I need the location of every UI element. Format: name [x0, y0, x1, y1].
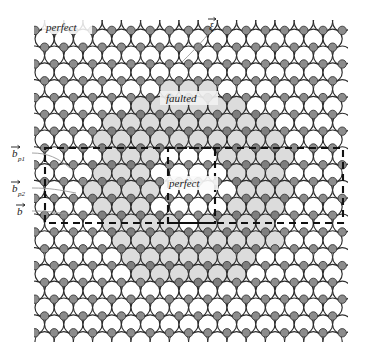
interstitial-atom [40, 110, 48, 118]
interstitial-atom [156, 110, 164, 118]
interstitial-atom [242, 295, 250, 303]
interstitial-atom [136, 278, 144, 286]
interstitial-atom [117, 110, 125, 118]
interstitial-atom [204, 329, 212, 337]
interstitial-atom [40, 77, 48, 85]
interstitial-atom [300, 261, 308, 269]
interstitial-atom [252, 312, 260, 320]
interstitial-atom [184, 26, 192, 34]
interstitial-atom [290, 211, 298, 219]
interstitial-atom [69, 295, 77, 303]
interstitial-atom [69, 161, 77, 169]
interstitial-atom [117, 177, 125, 185]
interstitial-atom [223, 295, 231, 303]
interstitial-atom [50, 60, 58, 68]
interstitial-atom [146, 228, 154, 236]
interstitial-atom [184, 60, 192, 68]
interstitial-atom [108, 228, 116, 236]
interstitial-atom [69, 329, 77, 337]
interstitial-atom [50, 228, 58, 236]
interstitial-atom [146, 127, 154, 135]
interstitial-atom [156, 312, 164, 320]
interstitial-atom [165, 295, 173, 303]
interstitial-atom [69, 194, 77, 202]
interstitial-atom [242, 329, 250, 337]
interstitial-atom [79, 77, 87, 85]
interstitial-atom [242, 26, 250, 34]
interstitial-atom [261, 26, 269, 34]
interstitial-atom [309, 245, 317, 253]
interstitial-atom [328, 278, 336, 286]
interstitial-atom [117, 245, 125, 253]
interstitial-atom [127, 26, 135, 34]
interstitial-atom [88, 329, 96, 337]
interstitial-atom [194, 211, 202, 219]
interstitial-atom [271, 43, 279, 51]
interstitial-atom [319, 329, 327, 337]
interstitial-atom [252, 278, 260, 286]
interstitial-atom [98, 177, 106, 185]
interstitial-atom [175, 211, 183, 219]
interstitial-atom [165, 261, 173, 269]
interstitial-atom [328, 77, 336, 85]
interstitial-atom [338, 261, 346, 269]
label-perfect-inner: perfect [168, 177, 200, 189]
interstitial-atom [319, 60, 327, 68]
interstitial-atom [98, 312, 106, 320]
interstitial-atom [300, 295, 308, 303]
interstitial-atom [40, 245, 48, 253]
interstitial-atom [184, 228, 192, 236]
interstitial-atom [146, 60, 154, 68]
interstitial-atom [319, 194, 327, 202]
interstitial-atom [127, 261, 135, 269]
interstitial-atom [40, 312, 48, 320]
interstitial-atom [98, 110, 106, 118]
interstitial-atom [79, 110, 87, 118]
interstitial-atom [117, 312, 125, 320]
interstitial-atom [165, 329, 173, 337]
interstitial-atom [309, 278, 317, 286]
interstitial-atom [290, 43, 298, 51]
interstitial-atom [232, 43, 240, 51]
interstitial-atom [60, 110, 68, 118]
interstitial-atom [223, 329, 231, 337]
interstitial-atom [88, 60, 96, 68]
interstitial-atom [146, 93, 154, 101]
interstitial-atom [213, 278, 221, 286]
interstitial-atom [79, 211, 87, 219]
interstitial-atom [290, 312, 298, 320]
interstitial-atom [69, 93, 77, 101]
interstitial-atom [108, 161, 116, 169]
interstitial-atom [136, 245, 144, 253]
interstitial-atom [223, 228, 231, 236]
interstitial-atom [127, 329, 135, 337]
label-faulted: faulted [166, 92, 197, 104]
interstitial-atom [280, 228, 288, 236]
interstitial-atom [50, 194, 58, 202]
interstitial-atom [271, 77, 279, 85]
interstitial-atom [280, 261, 288, 269]
interstitial-atom [261, 329, 269, 337]
interstitial-atom [300, 228, 308, 236]
interstitial-atom [50, 295, 58, 303]
interstitial-atom [271, 278, 279, 286]
interstitial-atom [108, 295, 116, 303]
interstitial-atom [252, 177, 260, 185]
interstitial-atom [271, 245, 279, 253]
interstitial-atom [50, 93, 58, 101]
interstitial-atom [50, 329, 58, 337]
interstitial-atom [290, 110, 298, 118]
label-xi: ξ [209, 20, 214, 33]
interstitial-atom [156, 77, 164, 85]
interstitial-atom [194, 43, 202, 51]
interstitial-atom [319, 26, 327, 34]
interstitial-atom [232, 245, 240, 253]
interstitial-atom [50, 261, 58, 269]
interstitial-atom [60, 211, 68, 219]
interstitial-atom [338, 60, 346, 68]
interstitial-atom [271, 177, 279, 185]
interstitial-atom [252, 43, 260, 51]
interstitial-atom [223, 60, 231, 68]
label-bp1-subscript: p1 [17, 155, 25, 163]
interstitial-atom [127, 228, 135, 236]
